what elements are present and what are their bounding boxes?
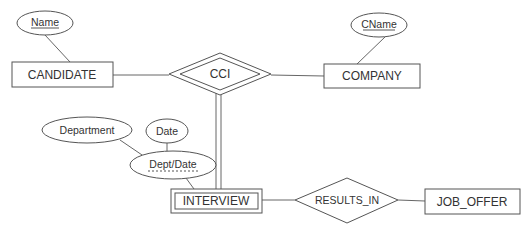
relationship-cci-label: CCI	[210, 67, 231, 81]
attribute-department-label: Department	[60, 124, 115, 136]
attribute-department[interactable]: Department	[42, 117, 132, 143]
attribute-name[interactable]: Name	[17, 11, 73, 35]
attribute-dept-date-label: Dept/Date	[149, 158, 196, 170]
attribute-cname-label: CName	[361, 18, 397, 30]
connector-name-candidate	[45, 35, 70, 62]
attribute-dept-date[interactable]: Dept/Date	[130, 151, 216, 179]
entity-candidate-label: CANDIDATE	[28, 68, 96, 82]
attribute-date-label: Date	[156, 125, 178, 137]
relationship-results-in-label: RESULTS_IN	[315, 194, 379, 206]
relationship-cci[interactable]: CCI	[169, 53, 271, 95]
connector-resultsin-joboffer	[398, 200, 425, 201]
entity-interview-label: INTERVIEW	[183, 194, 250, 208]
connector-cname-company	[357, 37, 385, 64]
entity-interview[interactable]: INTERVIEW	[171, 189, 262, 213]
entity-job-offer[interactable]: JOB_OFFER	[425, 189, 520, 214]
er-diagram-canvas: Name CName CANDIDATE CCI COMPANY Departm…	[0, 0, 530, 232]
relationship-results-in[interactable]: RESULTS_IN	[295, 178, 398, 223]
attribute-date[interactable]: Date	[146, 119, 188, 143]
entity-candidate[interactable]: CANDIDATE	[12, 62, 113, 87]
entity-company[interactable]: COMPANY	[324, 64, 420, 88]
attribute-cname[interactable]: CName	[351, 13, 407, 37]
connector-cci-company	[271, 75, 324, 76]
connector-department-deptdate	[120, 140, 145, 157]
connector-deptdate-interview	[186, 178, 194, 189]
entity-company-label: COMPANY	[342, 69, 402, 83]
attribute-name-label: Name	[31, 16, 59, 28]
entity-job-offer-label: JOB_OFFER	[437, 195, 508, 209]
